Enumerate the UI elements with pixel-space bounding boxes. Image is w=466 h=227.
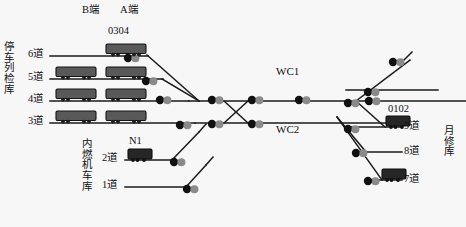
- rail-car-t5-a[interactable]: [106, 67, 146, 80]
- turnout-icon-t7[interactable]: [364, 177, 380, 186]
- label-track-6: 6道: [28, 49, 43, 60]
- rail-car-t4-b[interactable]: [56, 89, 96, 102]
- ladder-lower-left-d: [206, 157, 213, 165]
- label-building-停车列检库: 停 车 列 检 库: [4, 42, 14, 96]
- turnout-icon-wc1-right[interactable]: [365, 97, 381, 106]
- turnout-icon-wc1-mid[interactable]: [295, 96, 311, 105]
- turnout-icon-t2[interactable]: [170, 158, 186, 167]
- label-unit-0304: 0304: [108, 26, 129, 37]
- rail-car-t3-b[interactable]: [56, 111, 96, 124]
- turnout-icon-wc2-east[interactable]: [248, 120, 264, 129]
- rail-car-t3-a[interactable]: [106, 111, 146, 124]
- label-building-内燃机车库: 内 燃 机 车 库: [82, 139, 92, 193]
- lower-building-char-4: 库: [82, 182, 92, 193]
- label-track-4: 4道: [28, 94, 43, 105]
- ladder-lower-left-a: [172, 132, 199, 160]
- turnout-icon-t9[interactable]: [344, 125, 360, 134]
- ladder-right-main: [356, 60, 410, 101]
- track-layout-diagram: B端 A端 0304 N1 0102 WC1 WC2 停 车 列 检 库 内 燃…: [0, 0, 466, 227]
- label-main-line-wc2: WC2: [276, 124, 299, 135]
- turnout-icon-t6[interactable]: [124, 54, 140, 63]
- turnout-icon-t3[interactable]: [176, 121, 192, 130]
- turnout-icon-t1[interactable]: [183, 185, 199, 194]
- rail-car-t5-b[interactable]: [56, 67, 96, 80]
- turnout-icon-t5[interactable]: [142, 77, 158, 86]
- label-building-月修库: 月 修 库: [444, 126, 454, 158]
- turnout-icon-upper-right-a[interactable]: [389, 58, 405, 67]
- label-track-9: 9道: [404, 121, 419, 132]
- turnout-icon-t4[interactable]: [156, 96, 172, 105]
- label-track-1: 1道: [102, 180, 117, 191]
- turnout-icon-wc1-east[interactable]: [248, 96, 264, 105]
- building-char-4: 库: [4, 85, 14, 96]
- label-track-3: 3道: [28, 116, 43, 127]
- label-track-5: 5道: [28, 72, 43, 83]
- label-main-line-wc1: WC1: [276, 66, 299, 77]
- turnout-icon-t8[interactable]: [352, 149, 368, 158]
- rail-car-t4-a[interactable]: [106, 89, 146, 102]
- label-track-2: 2道: [102, 153, 117, 164]
- label-unit-0102: 0102: [388, 104, 409, 115]
- label-b-end: B端: [82, 5, 99, 16]
- turnout-icon-wc2-west[interactable]: [208, 120, 224, 129]
- ladder-right-upper: [404, 52, 412, 60]
- label-a-end: A端: [120, 5, 138, 16]
- turnout-icon-right-ladder-a[interactable]: [344, 99, 360, 108]
- ladder-lower-left-b: [186, 165, 206, 187]
- label-track-8: 8道: [404, 146, 419, 157]
- label-unit-n1: N1: [129, 136, 142, 147]
- right-building-char-2: 库: [444, 147, 454, 158]
- label-track-7: 7道: [404, 174, 419, 185]
- turnout-icon-wc1-west[interactable]: [208, 96, 224, 105]
- ladder-lower-left-c: [199, 124, 206, 132]
